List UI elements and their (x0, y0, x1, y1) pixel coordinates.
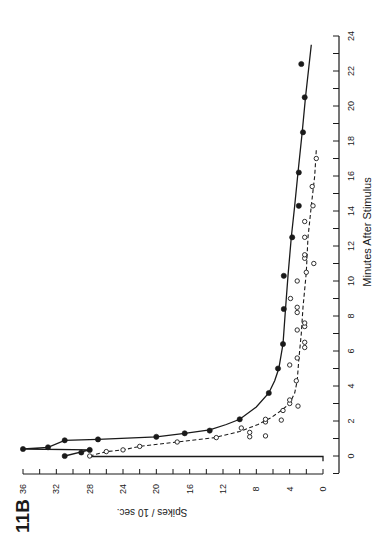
filled-data-point (296, 203, 301, 208)
filled-data-point (296, 170, 301, 175)
open-data-point (288, 296, 292, 300)
filled-data-point (182, 431, 187, 436)
spikes-tick-label: 16 (185, 484, 195, 494)
open-data-point (303, 345, 307, 349)
filled-data-point (20, 446, 25, 451)
filled-data-point (300, 130, 305, 135)
open-data-point (104, 449, 108, 453)
open-data-point (88, 454, 92, 458)
open-data-point (175, 440, 179, 444)
open-data-point (303, 219, 307, 223)
spikes-tick-label: 0 (318, 486, 328, 491)
filled-data-point (275, 366, 280, 371)
open-data-point (303, 321, 307, 325)
open-data-point (138, 444, 142, 448)
spikes-tick-label: 4 (285, 486, 295, 491)
spikes-tick-label: 24 (118, 484, 128, 494)
minutes-axis-ticks (333, 36, 339, 474)
chart-figure: 04812162024283236 024681012141618202224 … (0, 0, 388, 546)
open-data-point (288, 363, 292, 367)
open-data-point (281, 408, 285, 412)
open-data-point (296, 404, 300, 408)
minutes-axis-title: Minutes After Stimulus (361, 177, 373, 287)
open-data-point (121, 448, 125, 452)
filled-data-point (62, 453, 67, 458)
filled-data-point (281, 273, 286, 278)
open-data-point (214, 435, 218, 439)
open-data-point (295, 305, 299, 309)
minutes-tick-label: 0 (346, 453, 356, 458)
spikes-axis-tick-labels: 04812162024283236 (18, 484, 328, 494)
spikes-tick-label: 8 (251, 486, 261, 491)
minutes-tick-label: 22 (346, 66, 356, 76)
minutes-tick-label: 12 (346, 241, 356, 251)
open-data-point (288, 398, 292, 402)
minutes-tick-label: 16 (346, 171, 356, 181)
minutes-tick-label: 18 (346, 136, 356, 146)
open-data-point (263, 417, 267, 421)
open-data-point (303, 253, 307, 257)
filled-data-point (281, 306, 286, 311)
open-data-point (312, 261, 316, 265)
filled-data-point (207, 428, 212, 433)
open-data-point (303, 340, 307, 344)
filled-data-point (299, 61, 304, 66)
spikes-axis-title: Spikes / 10 sec. (117, 507, 188, 518)
open-data-point (294, 379, 298, 383)
spikes-tick-label: 32 (51, 484, 61, 494)
minutes-tick-label: 6 (346, 348, 356, 353)
filled-data-point (62, 438, 67, 443)
spikes-axis-ticks (23, 469, 323, 474)
open-data-point (295, 310, 299, 314)
filled-data-point (154, 434, 159, 439)
minutes-tick-label: 4 (346, 383, 356, 388)
minutes-axis: 024681012141618202224 (333, 31, 356, 474)
filled-data-point (45, 445, 50, 450)
open-data-point (263, 434, 267, 438)
open-data-point (304, 270, 308, 274)
minutes-tick-label: 14 (346, 206, 356, 216)
open-data-point (311, 204, 315, 208)
open-data-point (295, 328, 299, 332)
data-points (20, 61, 318, 458)
minutes-tick-label: 2 (346, 418, 356, 423)
minutes-tick-label: 20 (346, 101, 356, 111)
filled-data-point (87, 447, 92, 452)
filled-data-point (302, 95, 307, 100)
filled-data-point (266, 390, 271, 395)
spikes-tick-label: 28 (85, 484, 95, 494)
figure-label: 11B (12, 499, 33, 533)
open-data-point (310, 184, 314, 188)
open-data-point (248, 435, 252, 439)
open-data-point (295, 356, 299, 360)
minutes-axis-tick-labels: 024681012141618202224 (346, 31, 356, 459)
stimulus-marker (90, 457, 323, 462)
minutes-tick-label: 8 (346, 313, 356, 318)
spikes-tick-label: 12 (218, 484, 228, 494)
open-data-point (279, 418, 283, 422)
open-data-point (248, 430, 252, 434)
filled-data-point (237, 417, 242, 422)
minutes-tick-label: 10 (346, 276, 356, 286)
filled-data-point (290, 235, 295, 240)
fit-curves (23, 45, 316, 456)
filled-data-point (79, 450, 84, 455)
spikes-tick-label: 36 (18, 484, 28, 494)
minutes-tick-label: 24 (346, 31, 356, 41)
open-data-point (303, 235, 307, 239)
filled-data-point (280, 341, 285, 346)
open-data-point (239, 426, 243, 430)
spikes-axis: 04812162024283236 (18, 469, 328, 494)
filled-data-point (95, 437, 100, 442)
open-data-point (295, 279, 299, 283)
open-data-point (314, 156, 318, 160)
spikes-tick-label: 20 (151, 484, 161, 494)
